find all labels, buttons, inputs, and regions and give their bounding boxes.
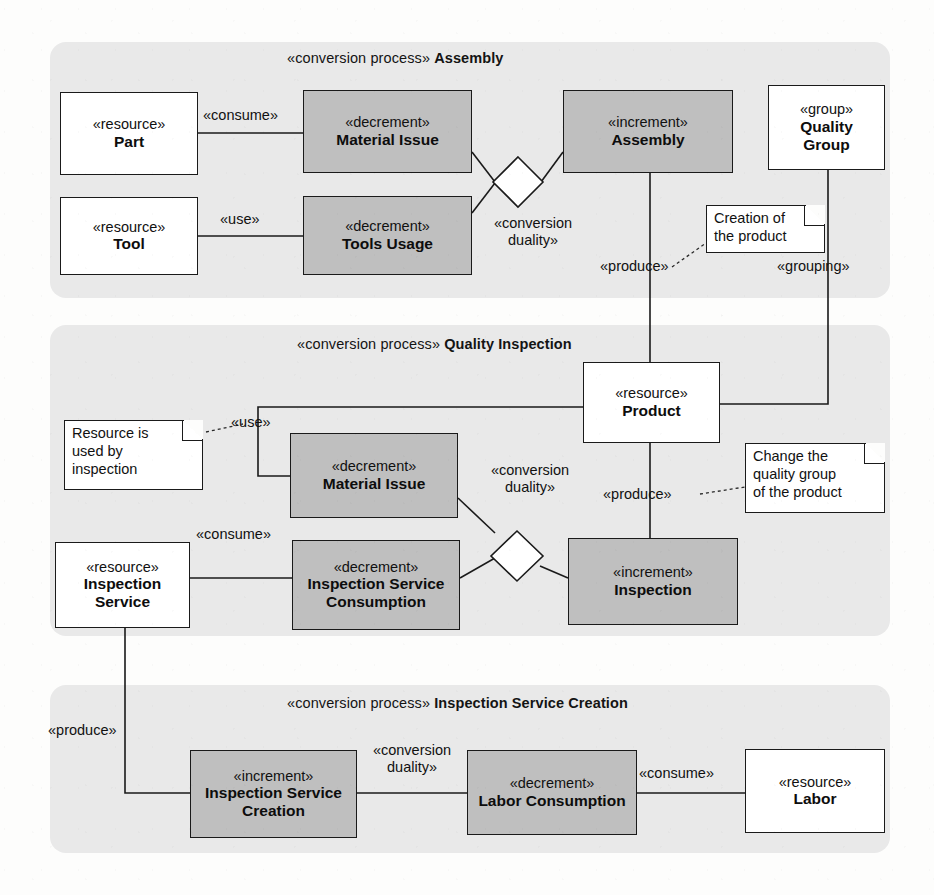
panel-stereotype: «conversion process» (287, 50, 430, 66)
edge-label-consume-top: «consume» (203, 107, 278, 124)
note-fold-icon (182, 420, 203, 441)
node-stereotype: «decrement» (510, 775, 595, 792)
node-assembly[interactable]: «increment» Assembly (563, 90, 733, 173)
node-stereotype: «increment» (613, 564, 693, 581)
node-name: Inspection Service Creation (195, 784, 352, 820)
node-inspection[interactable]: «increment» Inspection (568, 538, 738, 625)
edge-label-conversion-duality-middle: «conversion duality» (476, 462, 584, 495)
edge-label-grouping: «grouping» (777, 258, 850, 275)
edge-label-line-1: «conversion (476, 462, 584, 479)
node-name: Inspection (614, 581, 692, 599)
node-labor-consumption[interactable]: «decrement» Labor Consumption (467, 750, 637, 835)
edge-label-produce-service: «produce» (48, 722, 117, 739)
node-stereotype: «decrement» (345, 218, 430, 235)
node-inspection-service[interactable]: «resource» Inspection Service (55, 542, 190, 628)
node-stereotype: «increment» (608, 114, 688, 131)
node-part[interactable]: «resource» Part (60, 92, 198, 175)
node-stereotype: «resource» (93, 116, 166, 133)
node-stereotype: «resource» (779, 774, 852, 791)
node-quality-group[interactable]: «group» Quality Group (768, 85, 885, 170)
node-stereotype: «decrement» (334, 559, 419, 576)
node-name: Tools Usage (342, 235, 433, 253)
note-text: Creation of the product (714, 210, 787, 244)
note-text: Change the quality group of the product (753, 448, 842, 500)
edge-label-use-middle: «use» (231, 414, 271, 431)
note-change-quality-group[interactable]: Change the quality group of the product (745, 443, 885, 513)
edge-label-line-2: duality» (476, 479, 584, 496)
node-stereotype: «group» (800, 101, 853, 118)
edge-label-use-top: «use» (220, 211, 260, 228)
node-product[interactable]: «resource» Product (583, 362, 720, 443)
node-name: Material Issue (336, 131, 439, 149)
node-name: Inspection Service Consumption (299, 575, 453, 611)
node-name: Quality Group (800, 118, 853, 154)
panel-stereotype: «conversion process» (297, 336, 440, 352)
note-creation-of-product[interactable]: Creation of the product (706, 205, 825, 253)
edge-label-line-2: duality» (478, 232, 588, 249)
edge-label-line-2: duality» (357, 759, 467, 776)
note-fold-icon (804, 205, 825, 226)
node-name: Inspection Service (56, 575, 189, 611)
node-name: Labor Consumption (478, 792, 625, 810)
edge-label-line-1: «conversion (478, 215, 588, 232)
node-stereotype: «resource» (615, 385, 688, 402)
node-material-issue-assembly[interactable]: «decrement» Material Issue (303, 90, 472, 173)
panel-stereotype: «conversion process» (287, 695, 430, 711)
node-stereotype: «increment» (234, 768, 314, 785)
node-stereotype: «decrement» (332, 458, 417, 475)
node-tools-usage[interactable]: «decrement» Tools Usage (303, 196, 472, 275)
node-name: Part (114, 133, 144, 151)
panel-title-quality-inspection: «conversion process» Quality Inspection (297, 336, 572, 352)
node-name: Labor (793, 790, 836, 808)
edge-label-conversion-duality-top: «conversion duality» (478, 215, 588, 248)
panel-name: Assembly (434, 50, 503, 66)
node-tool[interactable]: «resource» Tool (60, 197, 198, 275)
node-name: Material Issue (323, 475, 426, 493)
node-labor[interactable]: «resource» Labor (745, 749, 885, 833)
node-stereotype: «resource» (86, 559, 159, 576)
note-text: Resource is used by inspection (72, 425, 149, 477)
node-name: Product (622, 402, 681, 420)
panel-title-inspection-service-creation: «conversion process» Inspection Service … (287, 695, 628, 711)
edge-label-produce-assembly: «produce» (600, 258, 669, 275)
edge-label-conversion-duality-bottom: «conversion duality» (357, 742, 467, 775)
panel-title-assembly: «conversion process» Assembly (287, 50, 504, 66)
node-inspection-service-consumption[interactable]: «decrement» Inspection Service Consumpti… (292, 540, 460, 630)
node-inspection-service-creation[interactable]: «increment» Inspection Service Creation (190, 750, 357, 838)
node-name: Tool (113, 235, 145, 253)
node-stereotype: «decrement» (345, 114, 430, 131)
edge-label-consume-middle: «consume» (196, 526, 271, 543)
node-material-issue-inspection[interactable]: «decrement» Material Issue (290, 433, 458, 518)
node-stereotype: «resource» (93, 219, 166, 236)
edge-label-line-1: «conversion (357, 742, 467, 759)
node-name: Assembly (611, 131, 684, 149)
note-fold-icon (864, 443, 885, 464)
panel-name: Quality Inspection (444, 336, 572, 352)
edge-label-produce-inspection: «produce» (603, 486, 672, 503)
note-resource-used-by-inspection[interactable]: Resource is used by inspection (64, 420, 203, 490)
diagram-canvas: «conversion process» Assembly «conversio… (0, 0, 934, 895)
panel-name: Inspection Service Creation (434, 695, 628, 711)
edge-label-consume-bottom: «consume» (639, 765, 714, 782)
